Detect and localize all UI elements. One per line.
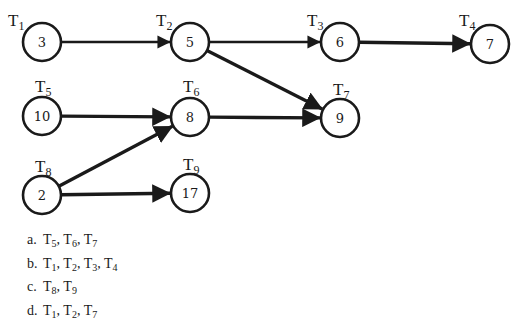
option-a: a.T5, T6, T7 <box>27 230 118 254</box>
node-t9: 17T9 <box>171 155 209 212</box>
edge-t6-to-t7 <box>209 117 320 118</box>
option-task: T2, <box>63 303 83 318</box>
option-task: T5, <box>43 232 63 247</box>
task-label: T8 <box>35 157 51 179</box>
option-task: T1, <box>43 303 63 318</box>
node-value: 10 <box>34 109 51 124</box>
option-task: T2, <box>63 256 83 271</box>
node-value: 17 <box>182 186 199 201</box>
option-task: T1, <box>43 256 63 271</box>
node-value: 9 <box>336 111 344 126</box>
node-t5: 10T5 <box>23 77 61 135</box>
node-value: 6 <box>336 35 344 50</box>
option-letter: c. <box>27 277 43 297</box>
option-letter: a. <box>27 230 43 250</box>
node-value: 3 <box>38 35 46 50</box>
option-task: T6, <box>63 232 83 247</box>
task-label: T4 <box>459 11 475 33</box>
edge-t2-to-t7 <box>207 51 322 109</box>
node-t3: 6T3 <box>307 11 359 61</box>
task-label: T9 <box>183 155 199 177</box>
option-letter: d. <box>27 301 43 321</box>
edge-t8-to-t9 <box>61 193 170 194</box>
node-value: 8 <box>186 110 194 125</box>
task-label: T6 <box>183 77 199 99</box>
option-letter: b. <box>27 254 43 274</box>
node-t2: 5T2 <box>156 11 209 61</box>
node-value: 2 <box>38 188 46 203</box>
node-t6: 8T6 <box>171 77 209 136</box>
node-t1: 3T1 <box>8 11 61 61</box>
task-label: T5 <box>35 77 51 99</box>
option-d: d.T1, T2, T7 <box>27 301 118 325</box>
task-graph: 3T15T26T37T410T58T69T72T817T9 <box>0 0 522 225</box>
option-b: b.T1, T2, T3, T4 <box>27 254 118 278</box>
option-task: T7 <box>84 232 98 247</box>
edge-t8-to-t6 <box>59 126 172 186</box>
edge-t5-to-t6 <box>61 116 170 117</box>
task-label: T7 <box>333 80 349 102</box>
node-t7: 9T7 <box>321 80 359 137</box>
option-task: T3, <box>84 256 104 271</box>
task-label: T3 <box>307 11 323 33</box>
node-t8: 2T8 <box>23 157 61 214</box>
node-value: 5 <box>186 35 194 50</box>
node-t4: 7T4 <box>459 11 509 63</box>
node-value: 7 <box>486 37 494 52</box>
option-c: c.T8, T9 <box>27 277 118 301</box>
option-task: T7 <box>84 303 98 318</box>
task-label: T2 <box>156 11 172 33</box>
option-task: T4 <box>104 256 118 271</box>
task-label: T1 <box>8 11 24 33</box>
answer-options: a.T5, T6, T7b.T1, T2, T3, T4c.T8, T9d.T1… <box>27 230 118 324</box>
edges <box>59 42 470 195</box>
option-task: T8, <box>43 279 63 294</box>
option-task: T9 <box>63 279 77 294</box>
edge-t3-to-t4 <box>359 42 470 43</box>
